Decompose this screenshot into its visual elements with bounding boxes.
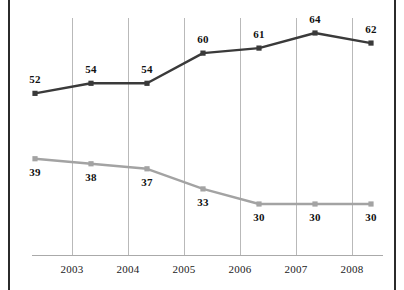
x-tick-label-2005: 2005 <box>173 263 196 275</box>
gridline-2008 <box>352 18 353 255</box>
data-marker-gray-series-2 <box>144 166 149 171</box>
data-marker-gray-series-6 <box>368 201 373 206</box>
chart-page: 5254546061646239383733303030 20032004200… <box>0 0 404 290</box>
data-label-gray-series-3: 33 <box>197 196 208 208</box>
x-tick-label-2007: 2007 <box>285 263 308 275</box>
data-label-dark-series-2: 54 <box>141 63 152 75</box>
data-label-dark-series-1: 54 <box>85 63 96 75</box>
data-label-gray-series-5: 30 <box>309 211 320 223</box>
x-tick-label-2008: 2008 <box>341 263 364 275</box>
data-marker-dark-series-2 <box>144 81 149 86</box>
gridline-2006 <box>240 18 241 255</box>
data-label-dark-series-3: 60 <box>197 33 208 45</box>
data-marker-dark-series-3 <box>200 51 205 56</box>
data-label-dark-series-5: 64 <box>309 13 320 25</box>
x-tick-label-2003: 2003 <box>61 263 84 275</box>
data-marker-dark-series-6 <box>368 40 373 45</box>
data-marker-gray-series-3 <box>200 186 205 191</box>
data-marker-dark-series-4 <box>256 45 261 50</box>
x-tick-label-2006: 2006 <box>229 263 252 275</box>
data-label-gray-series-0: 39 <box>29 166 40 178</box>
data-marker-gray-series-5 <box>312 201 317 206</box>
data-marker-dark-series-1 <box>88 81 93 86</box>
x-axis-line <box>32 255 383 256</box>
gridline-2005 <box>184 18 185 255</box>
data-marker-dark-series-0 <box>32 91 37 96</box>
data-label-gray-series-2: 37 <box>141 176 152 188</box>
data-marker-dark-series-5 <box>312 30 317 35</box>
gridline-2003 <box>72 18 73 255</box>
data-label-gray-series-6: 30 <box>365 211 376 223</box>
data-label-gray-series-4: 30 <box>253 211 264 223</box>
data-label-gray-series-1: 38 <box>85 171 96 183</box>
data-marker-gray-series-0 <box>32 156 37 161</box>
data-marker-gray-series-1 <box>88 161 93 166</box>
data-marker-gray-series-4 <box>256 201 261 206</box>
gridline-2004 <box>128 18 129 255</box>
x-tick-label-2004: 2004 <box>117 263 140 275</box>
data-label-dark-series-4: 61 <box>253 28 264 40</box>
plot-area: 5254546061646239383733303030 20032004200… <box>0 0 404 290</box>
data-label-dark-series-0: 52 <box>29 73 40 85</box>
data-label-dark-series-6: 62 <box>365 23 376 35</box>
gridline-2007 <box>296 18 297 255</box>
